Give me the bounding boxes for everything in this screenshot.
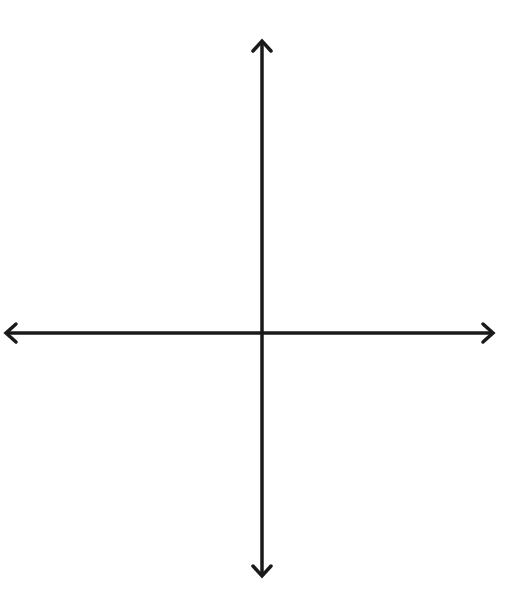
coordinate-plane [0, 0, 530, 594]
axes [6, 41, 493, 576]
